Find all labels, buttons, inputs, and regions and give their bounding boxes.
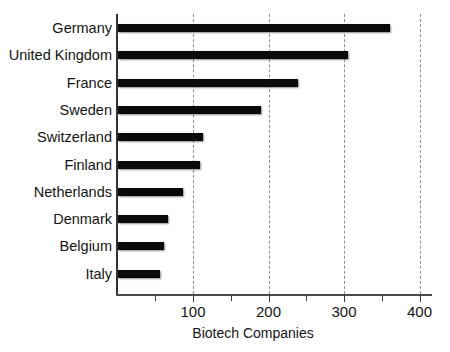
bar-netherlands [118,188,183,196]
x-tick-200 [269,296,270,302]
x-tick-label-200: 200 [256,303,281,321]
bar-france [118,79,298,87]
bar-row: Netherlands [0,179,450,205]
bar-italy [118,270,160,278]
bar-row: Denmark [0,206,450,232]
x-tick-minor-150 [231,296,232,301]
category-label-netherlands: Netherlands [34,179,112,205]
bar-row: Sweden [0,97,450,123]
bar-row: United Kingdom [0,42,450,68]
x-tick-300 [344,296,345,302]
category-label-sweden: Sweden [60,97,112,123]
x-tick-label-100: 100 [180,303,205,321]
bar-row: Finland [0,152,450,178]
x-tick-100 [193,296,194,302]
category-label-finland: Finland [64,152,112,178]
x-tick-label-400: 400 [407,303,432,321]
category-label-belgium: Belgium [60,233,112,259]
category-label-germany: Germany [52,15,112,41]
x-tick-400 [420,296,421,302]
x-axis-title-text: Biotech Companies [192,325,313,341]
bar-germany [118,24,390,32]
bar-denmark [118,215,168,223]
x-axis-line [116,294,432,296]
x-axis-title: Biotech Companies [0,325,450,341]
category-label-united-kingdom: United Kingdom [9,42,112,68]
bar-belgium [118,242,164,250]
category-label-switzerland: Switzerland [37,124,112,150]
category-label-italy: Italy [85,261,112,287]
category-label-denmark: Denmark [53,206,112,232]
bar-united-kingdom [118,51,348,59]
bar-switzerland [118,133,203,141]
x-tick-minor-350 [382,296,383,301]
biotech-companies-bar-chart: 100200300400 GermanyUnited KingdomFrance… [0,0,450,352]
bar-row: Switzerland [0,124,450,150]
x-tick-minor-50 [155,296,156,301]
x-tick-label-300: 300 [331,303,356,321]
bar-sweden [118,106,261,114]
bar-row: France [0,70,450,96]
x-tick-minor-250 [306,296,307,301]
bar-finland [118,161,200,169]
bar-row: Germany [0,15,450,41]
bar-row: Italy [0,261,450,287]
category-label-france: France [67,70,112,96]
bar-row: Belgium [0,233,450,259]
